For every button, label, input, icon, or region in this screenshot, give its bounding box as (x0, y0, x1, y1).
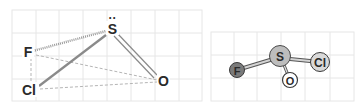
atom-label-f: F (24, 44, 33, 60)
bond-s-o-double-1 (117, 33, 157, 75)
left-bonds (31, 31, 157, 89)
svg-text:S: S (276, 50, 284, 64)
ball-atom-o: O (283, 73, 298, 88)
bond-cl-o-dashed (40, 82, 157, 89)
ball-atom-s: S (270, 46, 291, 67)
atom-label-o: O (158, 73, 169, 89)
bond-cl-s-solid (39, 35, 106, 86)
bond-f-o-dashed (36, 55, 157, 80)
molecule-diagram: S ·· F Cl O F Cl (0, 0, 364, 106)
bond-s-o-double-2 (114, 36, 154, 78)
atom-label-cl: Cl (22, 82, 36, 98)
ball-atom-cl: Cl (311, 53, 330, 72)
bond-f-s-hashed (33, 31, 106, 51)
svg-text:Cl: Cl (314, 56, 326, 70)
ball-atom-f: F (230, 63, 245, 78)
lone-pair-s: ·· (109, 11, 117, 25)
svg-text:F: F (234, 65, 241, 77)
svg-text:O: O (286, 75, 295, 87)
